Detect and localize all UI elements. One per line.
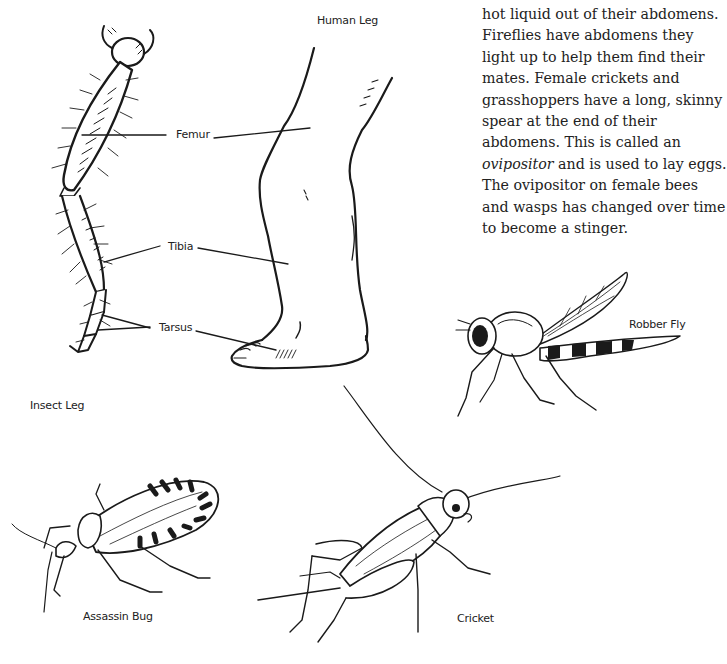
text-line: hot liquid out of their abdomens. (482, 4, 696, 25)
human-leg-caption: Human Leg (317, 14, 378, 27)
femur-label: Femur (176, 128, 210, 141)
text-line: The ovipositor on female bees (482, 175, 696, 196)
text-line: mates. Female crickets and (482, 68, 696, 89)
human-leg-illustration (232, 48, 392, 368)
tibia-label: Tibia (168, 240, 193, 253)
ovipositor-term: ovipositor (482, 156, 554, 172)
text-line: spear at the end of their (482, 111, 696, 132)
insect-leg-illustration (52, 26, 153, 352)
text-line: ovipositor and is used to lay eggs. (482, 154, 696, 175)
assassin-bug-caption: Assassin Bug (83, 610, 153, 623)
text-line: abdomens. This is called an (482, 132, 696, 153)
text-line: light up to help them find their (482, 47, 696, 68)
body-text-column: hot liquid out of their abdomens. Firefl… (482, 4, 696, 239)
insect-leg-caption: Insect Leg (30, 399, 84, 412)
text-line: to become a stinger. (482, 218, 696, 239)
tarsus-label: Tarsus (159, 321, 192, 334)
assassin-bug-illustration (12, 480, 218, 612)
text-fragment: and is used to lay eggs. (554, 156, 727, 172)
cricket-caption: Cricket (457, 612, 494, 625)
text-line: grasshoppers have a long, skinny (482, 90, 696, 111)
robber-fly-caption: Robber Fly (629, 318, 686, 331)
label-leader-lines (82, 128, 310, 350)
text-line: Fireflies have abdomens they (482, 25, 696, 46)
robber-fly-illustration (456, 273, 680, 416)
cricket-illustration (258, 386, 560, 642)
text-line: and wasps has changed over time (482, 197, 696, 218)
